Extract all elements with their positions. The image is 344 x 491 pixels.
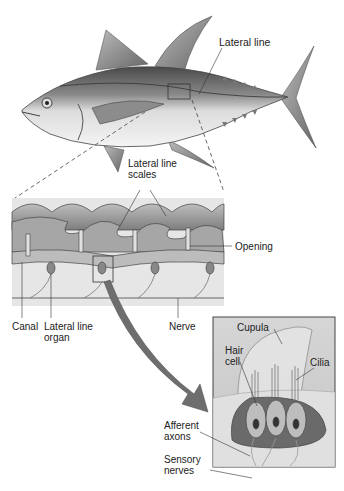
- lateral-line-scales-section: [12, 198, 224, 306]
- label-hair-cell: Hair cell: [225, 345, 243, 367]
- label-cupula: Cupula: [237, 322, 269, 333]
- label-lateral-line-scales: Lateral line scales: [128, 158, 177, 180]
- label-afferent-axons: Afferent axons: [164, 420, 199, 442]
- first-dorsal-fin: [96, 30, 148, 70]
- tuna-fish: [22, 16, 316, 172]
- label-lateral-line-organ: Lateral line organ: [44, 321, 93, 343]
- label-opening: Opening: [235, 241, 273, 252]
- label-canal: Canal: [12, 321, 38, 332]
- label-lateral-line: Lateral line: [219, 37, 270, 48]
- second-dorsal-fin: [155, 16, 212, 72]
- pelvic-fin: [104, 146, 124, 172]
- label-nerve: Nerve: [169, 321, 196, 332]
- label-sensory-nerves: Sensory nerves: [164, 454, 201, 476]
- label-cilia: Cilia: [310, 357, 329, 368]
- neuromast-inset: [213, 317, 335, 467]
- lateral-line-diagram: [0, 0, 344, 491]
